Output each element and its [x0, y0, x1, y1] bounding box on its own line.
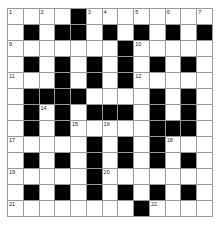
answer-cell[interactable]: 5 [134, 9, 150, 25]
answer-cell[interactable] [197, 169, 213, 185]
answer-cell[interactable] [134, 57, 150, 73]
answer-cell[interactable] [134, 137, 150, 153]
answer-cell[interactable] [40, 121, 56, 137]
answer-cell[interactable] [103, 73, 119, 89]
answer-cell[interactable] [40, 73, 56, 89]
answer-cell[interactable] [197, 153, 213, 169]
answer-cell[interactable] [24, 137, 40, 153]
answer-cell[interactable] [134, 105, 150, 121]
answer-cell[interactable] [166, 169, 182, 185]
answer-cell[interactable]: 18 [166, 137, 182, 153]
answer-cell[interactable] [8, 121, 24, 137]
answer-cell[interactable] [71, 105, 87, 121]
answer-cell[interactable] [87, 41, 103, 57]
answer-cell[interactable] [24, 169, 40, 185]
answer-cell[interactable] [197, 89, 213, 105]
answer-cell[interactable] [197, 73, 213, 89]
answer-cell[interactable] [150, 25, 166, 41]
answer-cell[interactable] [197, 105, 213, 121]
answer-cell[interactable]: 7 [197, 9, 213, 25]
answer-cell[interactable] [103, 89, 119, 105]
answer-cell[interactable] [166, 153, 182, 169]
answer-cell[interactable] [40, 153, 56, 169]
answer-cell[interactable] [8, 25, 24, 41]
answer-cell[interactable] [197, 41, 213, 57]
answer-cell[interactable] [40, 169, 56, 185]
answer-cell[interactable] [71, 153, 87, 169]
answer-cell[interactable] [150, 9, 166, 25]
answer-cell[interactable] [55, 201, 71, 217]
answer-cell[interactable] [40, 25, 56, 41]
answer-cell[interactable] [55, 137, 71, 153]
answer-cell[interactable] [71, 57, 87, 73]
answer-cell[interactable] [8, 105, 24, 121]
answer-cell[interactable] [166, 185, 182, 201]
answer-cell[interactable] [197, 201, 213, 217]
answer-cell[interactable] [134, 153, 150, 169]
answer-cell[interactable] [166, 89, 182, 105]
answer-cell[interactable] [71, 137, 87, 153]
answer-cell[interactable] [87, 201, 103, 217]
answer-cell[interactable] [24, 41, 40, 57]
answer-cell[interactable] [181, 169, 197, 185]
answer-cell[interactable] [40, 185, 56, 201]
answer-cell[interactable] [181, 9, 197, 25]
answer-cell[interactable] [103, 201, 119, 217]
answer-cell[interactable] [197, 57, 213, 73]
answer-cell[interactable] [197, 121, 213, 137]
answer-cell[interactable] [87, 25, 103, 41]
answer-cell[interactable]: 14 [40, 105, 56, 121]
answer-cell[interactable] [103, 57, 119, 73]
answer-cell[interactable] [197, 185, 213, 201]
answer-cell[interactable] [181, 73, 197, 89]
answer-cell[interactable]: 2 [40, 9, 56, 25]
answer-cell[interactable] [103, 185, 119, 201]
answer-cell[interactable] [134, 185, 150, 201]
answer-cell[interactable] [134, 89, 150, 105]
answer-cell[interactable] [71, 73, 87, 89]
answer-cell[interactable]: 9 [8, 41, 24, 57]
answer-cell[interactable]: 19 [8, 169, 24, 185]
answer-cell[interactable]: 20 [103, 169, 119, 185]
answer-cell[interactable] [118, 89, 134, 105]
answer-cell[interactable] [71, 185, 87, 201]
answer-cell[interactable]: 10 [134, 41, 150, 57]
answer-cell[interactable] [55, 41, 71, 57]
answer-cell[interactable] [150, 169, 166, 185]
answer-cell[interactable] [71, 169, 87, 185]
answer-cell[interactable] [103, 41, 119, 57]
answer-cell[interactable] [24, 9, 40, 25]
answer-cell[interactable]: 11 [8, 73, 24, 89]
answer-cell[interactable] [87, 89, 103, 105]
answer-cell[interactable] [197, 137, 213, 153]
answer-cell[interactable] [181, 25, 197, 41]
answer-cell[interactable] [103, 153, 119, 169]
answer-cell[interactable]: 17 [8, 137, 24, 153]
answer-cell[interactable] [166, 41, 182, 57]
answer-cell[interactable] [8, 89, 24, 105]
answer-cell[interactable] [181, 201, 197, 217]
answer-cell[interactable] [181, 41, 197, 57]
answer-cell[interactable] [40, 201, 56, 217]
answer-cell[interactable]: 22 [150, 201, 166, 217]
answer-cell[interactable]: 6 [166, 9, 182, 25]
answer-cell[interactable] [166, 201, 182, 217]
answer-cell[interactable] [134, 121, 150, 137]
answer-cell[interactable] [40, 57, 56, 73]
answer-cell[interactable] [24, 201, 40, 217]
answer-cell[interactable] [55, 9, 71, 25]
answer-cell[interactable] [103, 137, 119, 153]
answer-cell[interactable] [181, 137, 197, 153]
answer-cell[interactable]: 1 [8, 9, 24, 25]
answer-cell[interactable] [87, 121, 103, 137]
answer-cell[interactable] [8, 153, 24, 169]
answer-cell[interactable] [118, 9, 134, 25]
answer-cell[interactable] [118, 121, 134, 137]
answer-cell[interactable] [166, 105, 182, 121]
answer-cell[interactable]: 12 [134, 73, 150, 89]
answer-cell[interactable] [8, 185, 24, 201]
answer-cell[interactable] [71, 201, 87, 217]
answer-cell[interactable]: 16 [103, 121, 119, 137]
answer-cell[interactable] [55, 169, 71, 185]
answer-cell[interactable]: 4 [103, 9, 119, 25]
